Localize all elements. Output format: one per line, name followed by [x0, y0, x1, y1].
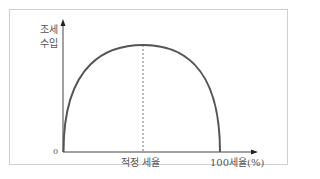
optimal-rate-label: 적정 세율 [121, 157, 160, 169]
y-axis-arrow-icon [61, 19, 66, 26]
y-axis-label-line2: 수입 [40, 38, 58, 50]
tax-revenue-curve [64, 45, 221, 152]
x-axis-label: 세율(%) [229, 157, 264, 169]
x-axis-arrow-icon [251, 150, 258, 155]
hundred-label: 100 [210, 157, 229, 169]
y-axis-label-line1: 조세 [40, 24, 58, 36]
origin-label: 0 [53, 146, 58, 158]
